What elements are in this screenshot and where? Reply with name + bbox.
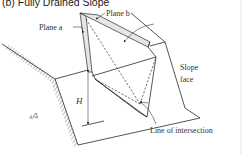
bench-line [55, 70, 88, 79]
height-label: H [75, 96, 83, 106]
wedge-failure-diagram: (b) Fully Drained Slope H Plane a Plane … [0, 0, 242, 154]
plane-b-surface [80, 13, 150, 47]
plane-a-surface [80, 13, 92, 72]
water-table-icon [29, 113, 37, 120]
slope-face-label-line1: Slope [180, 63, 199, 72]
intersection-line-dashed [86, 19, 140, 104]
wedge-outline [92, 47, 156, 117]
figure-title: (b) Fully Drained Slope [2, 0, 110, 8]
line-of-intersection-label: Line of intersection [150, 126, 213, 135]
slope-face-label-line2: face [180, 75, 194, 84]
ground-hatched-edge [2, 44, 78, 147]
plane-a-label: Plane a [39, 23, 63, 32]
plane-b-label: Plane b [106, 9, 130, 18]
